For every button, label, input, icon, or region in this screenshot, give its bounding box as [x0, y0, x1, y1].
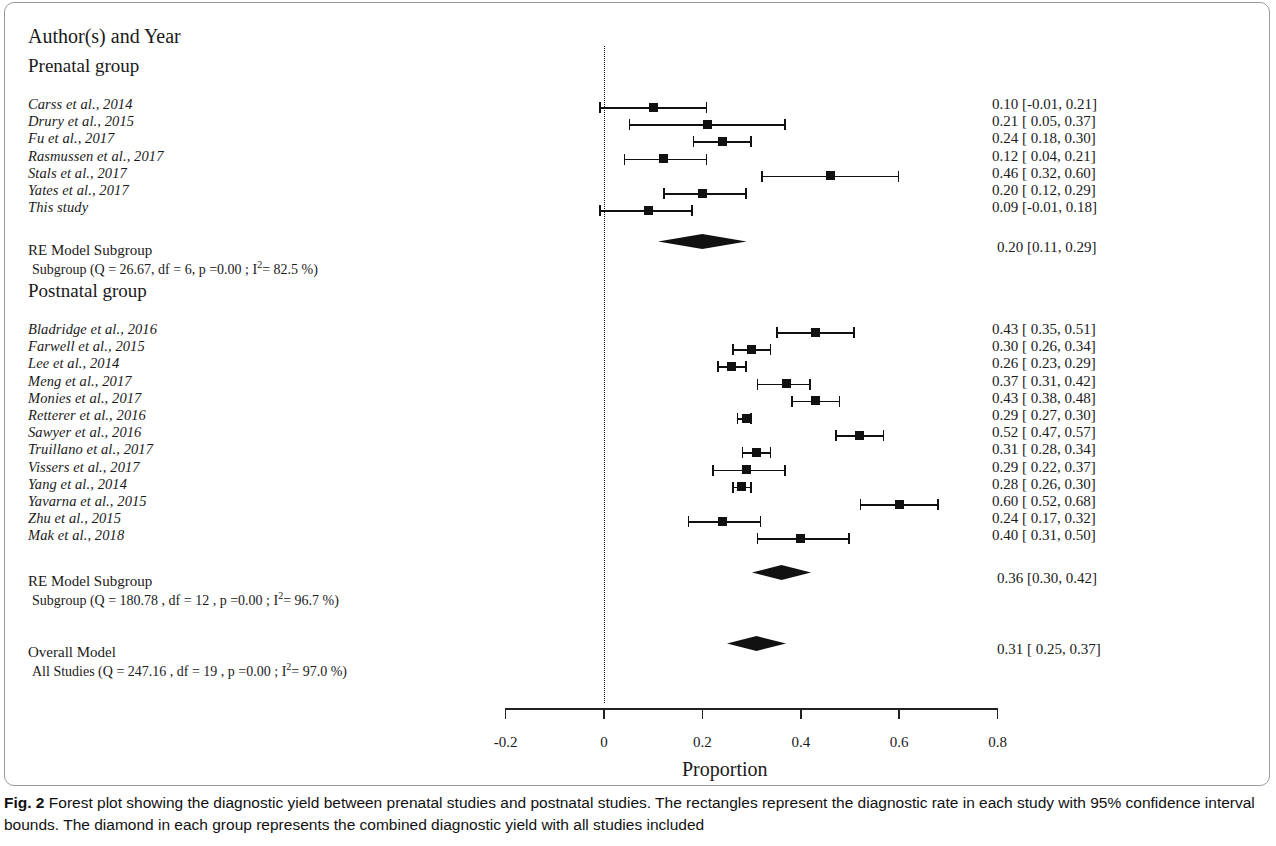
confidence-interval-cap-left [629, 119, 631, 130]
study-label: Stals et al., 2017 [28, 165, 127, 182]
study-marker [718, 517, 727, 526]
study-marker [727, 362, 736, 371]
x-axis-tick-label: 0 [564, 734, 644, 751]
summary-estimate: 0.36 [0.30, 0.42] [997, 570, 1097, 587]
overall-diamond [727, 636, 786, 651]
confidence-interval-cap-right [898, 171, 900, 182]
forest-plot: Author(s) and YearPrenatal groupCarss et… [5, 3, 1271, 787]
study-estimate: 0.29 [ 0.22, 0.37] [992, 459, 1096, 476]
study-label: Zhu et al., 2015 [28, 510, 121, 527]
confidence-interval-cap-left [757, 533, 759, 544]
study-label: Meng et al., 2017 [28, 373, 132, 390]
summary-heterogeneity-stats: All Studies (Q = 247.16 , df = 19 , p =0… [32, 661, 347, 680]
confidence-interval-cap-right [706, 102, 708, 113]
study-label: Mak et al., 2018 [28, 527, 124, 544]
confidence-interval-cap-left [732, 482, 734, 493]
study-estimate: 0.28 [ 0.26, 0.30] [992, 476, 1096, 493]
stats-text-pre: Subgroup (Q = 180.78 , df = 12 , p =0.00… [32, 593, 278, 608]
study-marker [752, 448, 761, 457]
study-marker [737, 482, 746, 491]
study-estimate: 0.12 [ 0.04, 0.21] [992, 148, 1096, 165]
summary-estimate: 0.20 [0.11, 0.29] [997, 239, 1096, 256]
study-estimate: 0.30 [ 0.26, 0.34] [992, 338, 1096, 355]
summary-heterogeneity-stats: Subgroup (Q = 180.78 , df = 12 , p =0.00… [32, 590, 339, 609]
study-label: Carss et al., 2014 [28, 96, 133, 113]
study-estimate: 0.24 [ 0.17, 0.32] [992, 510, 1096, 527]
study-marker [659, 154, 668, 163]
study-marker [649, 103, 658, 112]
confidence-interval-cap-left [860, 499, 862, 510]
subgroup-diamond [658, 234, 747, 249]
x-axis-title: Proportion [682, 758, 768, 781]
group-heading-postnatal: Postnatal group [28, 280, 147, 302]
confidence-interval-cap-right [883, 430, 885, 441]
confidence-interval-cap-left [663, 188, 665, 199]
confidence-interval-cap-right [770, 344, 772, 355]
confidence-interval-cap-right [784, 465, 786, 476]
study-label: Truillano et al., 2017 [28, 441, 153, 458]
x-axis-tick [603, 708, 605, 719]
x-axis-tick [800, 708, 802, 719]
x-axis-tick-label: 0.2 [662, 734, 742, 751]
study-estimate: 0.43 [ 0.35, 0.51] [992, 321, 1096, 338]
stats-text-post: = 82.5 %) [262, 262, 318, 277]
study-label: Drury et al., 2015 [28, 113, 134, 130]
study-marker [718, 137, 727, 146]
confidence-interval-cap-left [835, 430, 837, 441]
study-estimate: 0.31 [ 0.28, 0.34] [992, 441, 1096, 458]
column-header: Author(s) and Year [28, 25, 181, 48]
study-label: Monies et al., 2017 [28, 390, 141, 407]
caption-body: Forest plot showing the diagnostic yield… [4, 794, 1255, 833]
study-marker [811, 396, 820, 405]
study-marker [782, 379, 791, 388]
study-estimate: 0.43 [ 0.38, 0.48] [992, 390, 1096, 407]
study-estimate: 0.60 [ 0.52, 0.68] [992, 493, 1096, 510]
x-axis-tick-label: 0.4 [761, 734, 841, 751]
confidence-interval-cap-right [937, 499, 939, 510]
confidence-interval-cap-right [745, 188, 747, 199]
study-marker [742, 414, 751, 423]
study-label: Sawyer et al., 2016 [28, 424, 141, 441]
study-label: Vissers et al., 2017 [28, 459, 140, 476]
confidence-interval-cap-left [757, 379, 759, 390]
stats-text-post: = 96.7 %) [283, 593, 339, 608]
confidence-interval-cap-right [770, 447, 772, 458]
confidence-interval-cap-right [760, 516, 762, 527]
caption-figure-number: Fig. 2 [4, 794, 44, 811]
zero-reference-line [604, 46, 605, 703]
x-axis-tick [898, 708, 900, 719]
confidence-interval-cap-left [688, 516, 690, 527]
study-label: Lee et al., 2014 [28, 355, 119, 372]
x-axis-tick [702, 708, 704, 719]
confidence-interval-cap-right [691, 205, 693, 216]
group-heading-prenatal: Prenatal group [28, 55, 139, 77]
x-axis-tick-label: 0.6 [859, 734, 939, 751]
x-axis-tick [997, 708, 999, 719]
study-label: Yavarna et al., 2015 [28, 493, 147, 510]
study-marker [811, 328, 820, 337]
summary-title: Overall Model [28, 644, 116, 661]
x-axis-tick-label: -0.2 [466, 734, 546, 751]
study-estimate: 0.20 [ 0.12, 0.29] [992, 182, 1096, 199]
study-estimate: 0.21 [ 0.05, 0.37] [992, 113, 1096, 130]
study-estimate: 0.09 [-0.01, 0.18] [992, 199, 1097, 216]
subgroup-diamond [752, 565, 811, 580]
study-label: This study [28, 199, 88, 216]
confidence-interval-cap-left [599, 205, 601, 216]
study-estimate: 0.10 [-0.01, 0.21] [992, 96, 1097, 113]
study-marker [703, 120, 712, 129]
confidence-interval-cap-left [776, 327, 778, 338]
figure-caption: Fig. 2 Forest plot showing the diagnosti… [4, 792, 1270, 837]
study-estimate: 0.29 [ 0.27, 0.30] [992, 407, 1096, 424]
summary-estimate: 0.31 [ 0.25, 0.37] [997, 641, 1101, 658]
confidence-interval-cap-left [717, 361, 719, 372]
stats-text-pre: Subgroup (Q = 26.67, df = 6, p =0.00 ; I [32, 262, 257, 277]
study-marker [895, 500, 904, 509]
study-label: Farwell et al., 2015 [28, 338, 145, 355]
study-label: Bladridge et al., 2016 [28, 321, 157, 338]
study-estimate: 0.37 [ 0.31, 0.42] [992, 373, 1096, 390]
study-estimate: 0.52 [ 0.47, 0.57] [992, 424, 1096, 441]
confidence-interval-cap-right [784, 119, 786, 130]
confidence-interval-cap-left [791, 396, 793, 407]
stats-text-pre: All Studies (Q = 247.16 , df = 19 , p =0… [32, 664, 286, 679]
